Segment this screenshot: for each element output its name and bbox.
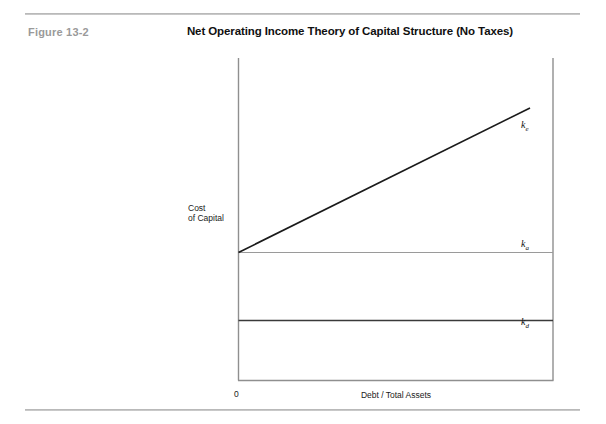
- chart-plot-area: Costof Capital Debt / Total Assets 0 ke …: [0, 0, 606, 424]
- y-axis-label-text: Costof Capital: [188, 203, 224, 223]
- series-label-kd-sub: d: [525, 322, 529, 330]
- series-label-kd: kd: [521, 316, 529, 330]
- page-rule-bottom: [25, 409, 580, 411]
- series-label-ke-sub: e: [525, 125, 528, 133]
- series-label-ke: ke: [521, 119, 529, 133]
- series-label-ka-sub: a: [525, 244, 529, 252]
- series-line-ke: [239, 108, 531, 253]
- x-axis-origin-tick: 0: [234, 389, 239, 399]
- series-label-ka: ka: [521, 238, 529, 252]
- x-axis-label: Debt / Total Assets: [268, 390, 524, 400]
- chart-svg: [0, 0, 606, 424]
- y-axis-label: Costof Capital: [188, 203, 234, 223]
